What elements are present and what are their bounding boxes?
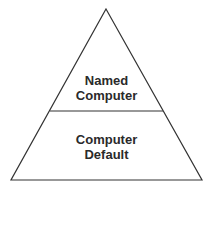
level-bottom-line-1: Computer — [0, 132, 213, 147]
level-top-line-2: Computer — [0, 88, 213, 103]
level-bottom-line-2: Default — [0, 147, 213, 162]
level-top-label: Named Computer — [0, 73, 213, 103]
level-bottom-label: Computer Default — [0, 132, 213, 162]
level-top-line-1: Named — [0, 73, 213, 88]
